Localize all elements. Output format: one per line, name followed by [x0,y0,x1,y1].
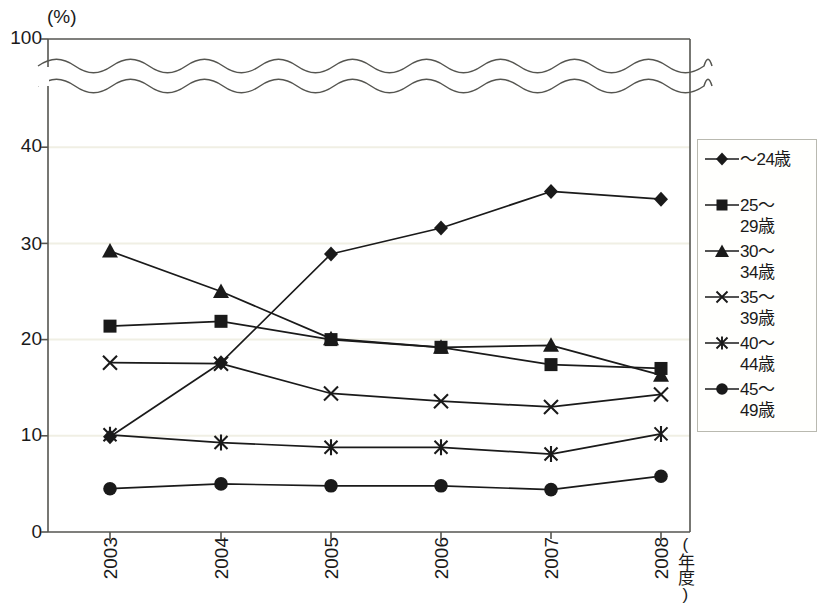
legend-marker-square-icon [704,196,740,214]
legend-marker-cross-icon [704,288,740,306]
legend-item-3[interactable]: 35～ 39歳 [698,287,816,333]
legend-marker-asterisk-icon [704,334,740,352]
legend-label-3: 35～ 39歳 [740,287,774,329]
legend-item-1[interactable]: 25～ 29歳 [698,195,816,241]
legend-marker-triangle-icon [704,242,740,260]
legend-label-1: 25～ 29歳 [740,195,774,237]
legend: ～24歳 25～ 29歳 30～ 34歳 35～ 39歳 [697,139,817,432]
legend-marker-diamond-icon [704,150,740,168]
legend-label-0: ～24歳 [740,149,791,170]
legend-item-0[interactable]: ～24歳 [698,149,816,195]
line-chart: (%) 100 40 30 20 10 0 2003 2004 2005 200… [0,0,825,614]
legend-item-4[interactable]: 40～ 44歳 [698,333,816,379]
legend-item-5[interactable]: 45～ 49歳 [698,379,816,425]
legend-marker-circle-icon [704,380,740,398]
legend-label-5: 45～ 49歳 [740,379,774,421]
legend-label-4: 40～ 44歳 [740,333,774,375]
legend-item-2[interactable]: 30～ 34歳 [698,241,816,287]
legend-label-2: 30～ 34歳 [740,241,774,283]
